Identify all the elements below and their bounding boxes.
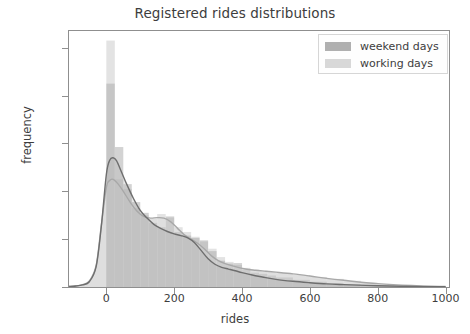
x-tick-mark — [242, 288, 243, 294]
kde-area-weekend-days — [69, 158, 446, 287]
chart-figure: Registered rides distributions frequency… — [0, 0, 470, 334]
chart-legend: weekend days working days — [318, 34, 448, 74]
legend-swatch-weekend-days — [325, 42, 351, 51]
legend-item-weekend-days: weekend days — [325, 38, 441, 55]
x-tick-mark — [106, 288, 107, 294]
chart-title: Registered rides distributions — [0, 5, 470, 21]
x-tick-mark — [378, 288, 379, 294]
legend-swatch-working-days — [325, 59, 351, 68]
x-tick-mark — [310, 288, 311, 294]
y-axis-label: frequency — [20, 80, 34, 190]
x-tick-mark — [174, 288, 175, 294]
legend-item-working-days: working days — [325, 55, 441, 72]
x-axis-label: rides — [0, 312, 470, 326]
x-tick-label: 1000 — [416, 292, 470, 305]
legend-label-weekend-days: weekend days — [360, 40, 439, 53]
x-tick-mark — [446, 288, 447, 294]
legend-label-working-days: working days — [360, 57, 433, 70]
